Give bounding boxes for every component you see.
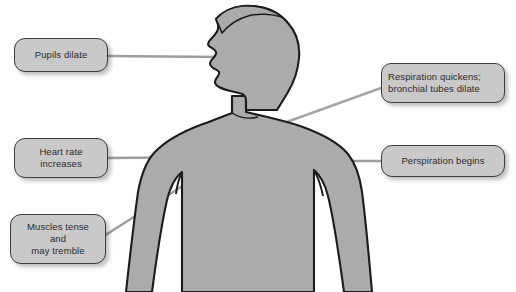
callout-pupils-label: Pupils dilate <box>21 49 101 61</box>
callout-heart-rate[interactable]: Heart rate increases <box>14 138 108 178</box>
physiological-response-diagram: Pupils dilate Heart rate increases Muscl… <box>0 0 516 292</box>
callout-pupils-dilate[interactable]: Pupils dilate <box>14 38 108 72</box>
callout-muscles-tense[interactable]: Muscles tense and may tremble <box>10 214 106 264</box>
torso-and-arms-shape <box>126 96 372 292</box>
callout-heart-label: Heart rate increases <box>21 146 101 170</box>
callout-perspiration-label: Perspiration begins <box>388 155 498 167</box>
callout-muscles-label: Muscles tense and may tremble <box>17 221 99 257</box>
human-body-silhouette <box>126 6 372 292</box>
callout-perspiration[interactable]: Perspiration begins <box>381 145 505 177</box>
callout-respiration-label: Respiration quickens; bronchial tubes di… <box>388 71 498 95</box>
callout-respiration[interactable]: Respiration quickens; bronchial tubes di… <box>381 63 505 103</box>
connector-pupils-icon <box>106 56 221 57</box>
